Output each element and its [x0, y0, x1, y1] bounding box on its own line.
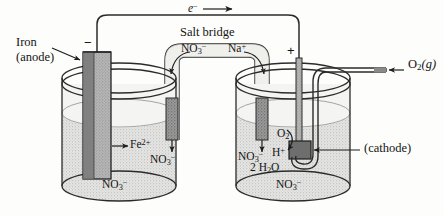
right-nitrate-bottom-label: NO3−: [276, 178, 301, 193]
electrochemical-cell-figure: e− Salt bridge NO3− Na+ Iron (anode) − +…: [0, 0, 444, 216]
oxygen-species-label: O2: [277, 127, 289, 142]
water-label: 2 H2O: [250, 161, 279, 176]
negative-terminal-sign: −: [84, 36, 92, 49]
iron-label-text: Iron: [16, 36, 54, 49]
proton-label: H+: [272, 146, 285, 158]
positive-terminal-sign: +: [287, 44, 295, 57]
bridge-sodium-label: Na+: [228, 42, 246, 54]
left-nitrate-bottom-label: NO3−: [102, 178, 127, 193]
iron-ion-label: Fe2+: [130, 138, 150, 150]
iron-electrode-anode: [83, 52, 111, 179]
left-nitrate-mid-label: NO3−: [150, 153, 175, 168]
salt-bridge-label: Salt bridge: [180, 26, 235, 39]
cathode-label: (cathode): [364, 142, 411, 155]
cathode-block: [289, 141, 311, 159]
bridge-nitrate-label: NO3−: [181, 42, 206, 57]
anode-label-text: (anode): [16, 51, 54, 64]
iron-anode-label: Iron (anode): [16, 36, 54, 64]
electron-flow-label: e−: [188, 2, 198, 14]
iron-label-leader: [52, 48, 80, 60]
oxygen-gas-label: O2(g): [408, 58, 436, 72]
